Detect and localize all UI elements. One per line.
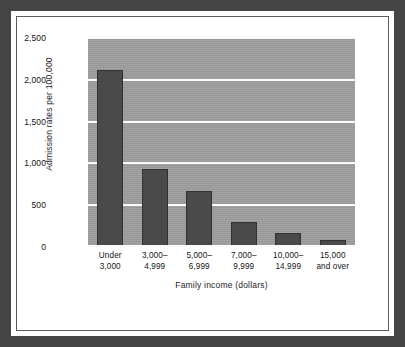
x-axis-title: Family income (dollars) bbox=[88, 280, 355, 290]
gridline bbox=[88, 121, 355, 123]
gridline bbox=[88, 37, 355, 39]
x-axis-tick-label: 3,000– 4,999 bbox=[133, 251, 178, 272]
x-axis-tick-label: 15,000 and over bbox=[311, 251, 356, 272]
bar-chart: Admission rates per 100,000 05001,0001,5… bbox=[17, 17, 388, 330]
bar bbox=[231, 222, 257, 247]
gridline bbox=[88, 79, 355, 81]
figure-frame: Admission rates per 100,000 05001,0001,5… bbox=[0, 0, 405, 347]
bar bbox=[186, 191, 212, 247]
y-axis-tick-label: 0 bbox=[0, 242, 46, 252]
x-axis-tick-label: 7,000– 9,999 bbox=[222, 251, 267, 272]
y-axis-tick-label: 1,000 bbox=[0, 158, 46, 168]
frame-mat: Admission rates per 100,000 05001,0001,5… bbox=[11, 11, 394, 336]
y-axis-tick-label: 500 bbox=[0, 200, 46, 210]
gridline bbox=[88, 162, 355, 164]
y-axis-tick-label: 2,500 bbox=[0, 33, 46, 43]
y-axis-tick-label: 1,500 bbox=[0, 117, 46, 127]
x-axis-baseline bbox=[88, 245, 355, 247]
x-axis-tick-label: 5,000– 6,999 bbox=[177, 251, 222, 272]
y-axis-tick-label: 2,000 bbox=[0, 75, 46, 85]
plot-area bbox=[88, 38, 355, 247]
x-axis-tick-label: Under 3,000 bbox=[88, 251, 133, 272]
frame-inner-rule: Admission rates per 100,000 05001,0001,5… bbox=[16, 16, 389, 331]
bar bbox=[97, 70, 123, 247]
y-axis-title: Admission rates per 100,000 bbox=[44, 34, 54, 194]
x-axis-tick-label: 10,000– 14,999 bbox=[266, 251, 311, 272]
gridline bbox=[88, 204, 355, 206]
bar bbox=[142, 169, 168, 247]
